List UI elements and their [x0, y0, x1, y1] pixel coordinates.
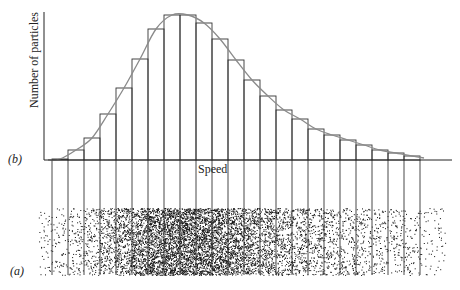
histogram-bar — [228, 60, 244, 160]
histogram-bar — [212, 39, 228, 160]
histogram-bar — [68, 150, 84, 160]
histogram-bar — [292, 119, 308, 160]
histogram-bar — [148, 29, 164, 160]
histogram-bars — [52, 15, 420, 160]
y-axis-label: Number of particles — [27, 12, 41, 108]
histogram-bar — [196, 23, 212, 160]
histogram-bar — [324, 135, 340, 160]
histogram-bar — [180, 15, 196, 160]
histogram-bar — [100, 114, 116, 160]
x-axis-label: Speed — [198, 162, 227, 176]
histogram-bar — [340, 140, 356, 160]
panel-b-label: (b) — [8, 152, 22, 166]
histogram-bar — [164, 15, 180, 160]
histogram-bar — [276, 110, 292, 160]
histogram-bar — [260, 96, 276, 160]
panel-a-label: (a) — [10, 264, 24, 278]
histogram-bar — [308, 129, 324, 160]
histogram-bar — [116, 88, 132, 160]
speed-distribution-figure: Number of particles Speed (b) (a) — [0, 0, 460, 290]
histogram-bar — [244, 80, 260, 160]
distribution-curve — [48, 14, 424, 160]
histogram-bar — [84, 138, 100, 160]
histogram-bar — [132, 59, 148, 160]
